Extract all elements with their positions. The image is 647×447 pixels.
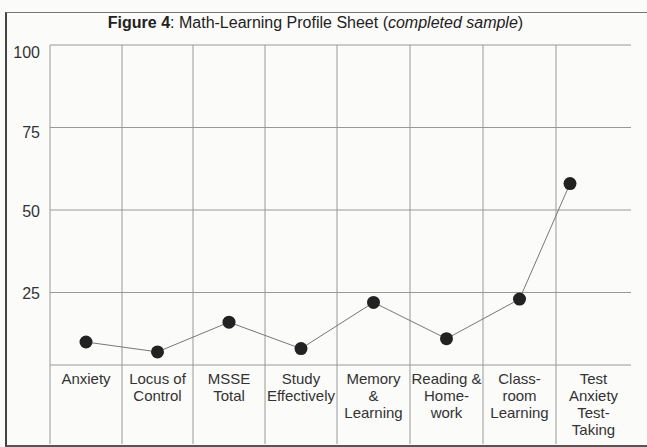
data-point xyxy=(440,332,453,345)
x-label: StudyEffectively xyxy=(265,370,337,404)
data-point xyxy=(513,293,526,306)
data-point xyxy=(367,296,380,309)
data-point xyxy=(151,345,164,358)
x-label: Locus ofControl xyxy=(122,370,193,404)
data-point xyxy=(564,177,577,190)
x-label: Class-roomLearning xyxy=(483,370,556,421)
x-label: MSSETotal xyxy=(193,370,265,404)
data-point xyxy=(80,336,93,349)
x-label: TestAnxietyTest-Taking xyxy=(556,370,631,438)
x-label: Reading &Home-work xyxy=(410,370,483,421)
data-point xyxy=(223,316,236,329)
x-label: Memory&Learning xyxy=(337,370,410,421)
series-line xyxy=(86,184,570,352)
data-point xyxy=(295,342,308,355)
x-label: Anxiety xyxy=(50,370,122,387)
